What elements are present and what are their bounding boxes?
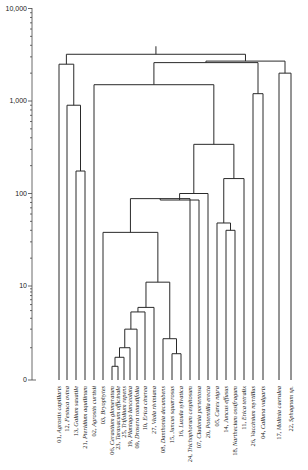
merge-link [112, 366, 118, 380]
leaf-label: 05, Carex nigra [213, 386, 220, 426]
merge-link [131, 312, 145, 380]
merge-link [59, 64, 74, 380]
merge-link [120, 348, 131, 380]
leaf-label: 03, Bryophytes [99, 385, 106, 424]
merge-link [67, 105, 81, 380]
leaf-label: 17, Molinia caerulea [275, 386, 282, 440]
dendrogram-links [59, 46, 291, 380]
leaf-label: 24, Trichophorum cespitosum [186, 386, 193, 463]
dendrogram-figure: 10,0001,000100100 01, Agrostis capillari… [0, 0, 308, 470]
leaf-label: 20, Potentilla erecta [204, 386, 211, 438]
leaf-label: 18, Narthecium ossifragum [231, 386, 238, 456]
merge-link [217, 223, 231, 380]
leaf-label: 02, Agrostis curtisii [90, 386, 97, 437]
leaf-label: 15, Juncus squarrosus [168, 386, 175, 444]
merge-link [76, 171, 85, 380]
merge-link [253, 94, 263, 380]
merge-link [172, 354, 181, 380]
merge-link [163, 339, 177, 380]
y-tick-label: 0 [23, 376, 27, 383]
leaf-label: 08, Danthonia decumbens [159, 386, 166, 453]
y-tick-label: 100 [15, 190, 27, 197]
leaf-label: 11, Erica tetralix [240, 386, 247, 430]
leaf-label: 09, Drosera rotundifolia [133, 386, 140, 449]
merge-link [138, 307, 154, 380]
leaf-label: 22, Sphagnum sp. [287, 386, 294, 432]
merge-link [146, 282, 170, 339]
merge-link [226, 230, 235, 380]
merge-link [130, 199, 190, 380]
y-tick-label: 10 [19, 282, 27, 289]
leaf-label: 26, Vaccinium myrtillus [249, 386, 256, 447]
leaf-label: 16, Luzula sylvatica [177, 386, 184, 437]
merge-link [194, 144, 234, 193]
merge-link [154, 63, 258, 94]
leaf-label: 19, Plantago lanceolata [126, 386, 133, 448]
leaf-label: 10, Erica cinerea [141, 386, 148, 430]
leaf-label: 21, Pteridium aquilinum [81, 386, 88, 449]
y-tick-label: 10,000 [6, 5, 28, 12]
leaf-labels: 01, Agrostis capillaris12, Festuca ovina… [55, 385, 294, 462]
y-tick-label: 1,000 [9, 97, 27, 104]
leaf-label: 01, Agrostis capillaris [55, 385, 62, 442]
merge-link [180, 194, 208, 381]
leaf-label: 13, Galium saxatile [72, 386, 79, 436]
leaf-label: 07, Cladonia portentosa [195, 386, 202, 448]
merge-link [160, 199, 199, 380]
y-axis: 10,0001,000100100 [6, 5, 36, 384]
leaf-label: 14, Juncus effusus [222, 386, 229, 433]
leaf-label: 04, Calluna vulgaris [259, 385, 266, 438]
leaf-label: 12, Festuca ovina [63, 386, 70, 432]
merge-link [279, 73, 291, 380]
leaf-label: 27, Viola riviniana [150, 386, 157, 434]
merge-link [125, 329, 137, 380]
merge-link [115, 357, 124, 380]
merge-link [224, 179, 244, 380]
